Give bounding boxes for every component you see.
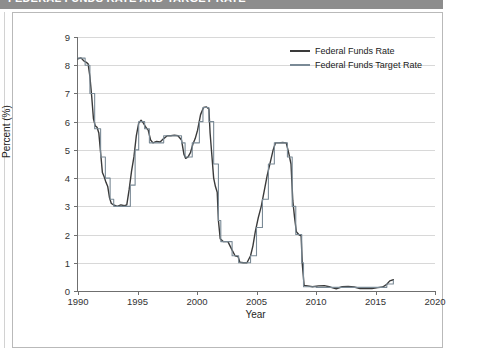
y-tick-label: 8: [65, 60, 70, 71]
y-tick-label: 1: [65, 257, 70, 268]
chart-legend: Federal Funds RateFederal Funds Target R…: [290, 45, 422, 73]
x-tick-label: 2010: [305, 296, 326, 307]
y-tick-label: 3: [65, 201, 70, 212]
section-header-title: FEDERAL FUNDS RATE AND TARGET RATE: [8, 0, 246, 4]
chart-figure-panel: Percent (%) Year 0123456789 199019952000…: [12, 12, 443, 348]
x-tick-mark: [78, 291, 79, 295]
y-tick-label: 2: [65, 229, 70, 240]
x-tick-label: 1995: [127, 296, 148, 307]
x-tick-label: 2020: [424, 296, 445, 307]
series-line: [78, 58, 393, 287]
section-header-bar: FEDERAL FUNDS RATE AND TARGET RATE: [0, 0, 443, 9]
legend-swatch-icon: [290, 50, 310, 52]
y-tick-label: 0: [65, 286, 70, 297]
y-tick-label: 9: [65, 32, 70, 43]
page-left-rule: [4, 12, 5, 348]
x-axis-title: Year: [77, 309, 434, 320]
x-tick-label: 1990: [67, 296, 88, 307]
x-tick-mark: [197, 291, 198, 295]
series-lines: [78, 37, 435, 291]
x-tick-mark: [257, 291, 258, 295]
y-axis-title: Percent (%): [1, 105, 12, 158]
x-tick-label: 2015: [365, 296, 386, 307]
y-tick-label: 6: [65, 116, 70, 127]
figure-root: FEDERAL FUNDS RATE AND TARGET RATE Perce…: [0, 0, 496, 357]
plot-area: 0123456789 1990199520002005201020152020 …: [77, 37, 435, 292]
legend-item[interactable]: Federal Funds Target Rate: [290, 59, 422, 71]
y-tick-label: 4: [65, 173, 70, 184]
series-line: [78, 58, 393, 289]
legend-label: Federal Funds Rate: [315, 46, 395, 56]
x-tick-label: 2005: [246, 296, 267, 307]
x-tick-mark: [435, 291, 436, 295]
x-tick-mark: [376, 291, 377, 295]
x-tick-mark: [138, 291, 139, 295]
legend-item[interactable]: Federal Funds Rate: [290, 45, 422, 57]
legend-swatch-icon: [290, 64, 310, 66]
x-tick-mark: [316, 291, 317, 295]
y-tick-label: 7: [65, 88, 70, 99]
x-tick-label: 2000: [186, 296, 207, 307]
legend-label: Federal Funds Target Rate: [315, 60, 422, 70]
y-tick-label: 5: [65, 144, 70, 155]
